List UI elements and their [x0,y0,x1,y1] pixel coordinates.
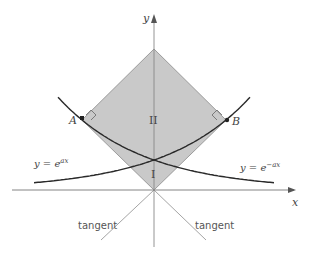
y-axis-arrow-icon [151,14,157,23]
diagram: A B II I y x y = eax y = e−ax tangent ta… [0,0,312,259]
point-b-label: B [231,115,240,128]
region-ii-label: II [149,114,158,127]
tangent-label-right: tangent [195,220,234,231]
x-axis-label: x [292,196,299,209]
point-a-label: A [68,114,77,127]
point-a-marker [80,116,84,120]
tangent-line-right [154,190,206,240]
curve-exp-plus-label: y = eax [33,157,68,169]
x-axis-arrow-icon [288,187,296,193]
point-b-marker [225,118,229,122]
tangent-label-left: tangent [78,220,117,231]
region-i-label: I [151,168,155,181]
curve-exp-minus-label: y = e−ax [239,161,280,173]
y-axis-label: y [142,12,150,25]
tangent-line-left [101,190,154,240]
